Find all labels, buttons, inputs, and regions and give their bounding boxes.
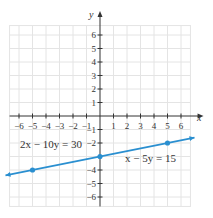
y-tick-label: 4 xyxy=(92,57,97,67)
line-arrow-icon xyxy=(189,136,194,141)
equation-label-right: x − 5y = 15 xyxy=(125,152,176,164)
x-tick-label: −5 xyxy=(28,121,38,131)
axes xyxy=(10,11,204,206)
coordinate-plane: −6−5−4−3−2−1123456−6−5−4−2−1123456 x y 2… xyxy=(0,0,213,218)
x-tick-label: 3 xyxy=(138,121,143,131)
data-point xyxy=(165,140,170,145)
x-tick-label: −2 xyxy=(68,121,78,131)
x-tick-label: 4 xyxy=(152,121,157,131)
y-tick-label: 2 xyxy=(92,84,97,94)
x-tick-label: 6 xyxy=(179,121,184,131)
y-axis-arrow-icon xyxy=(98,11,103,17)
y-tick-label: −2 xyxy=(86,138,96,148)
x-axis-label: x xyxy=(196,112,202,123)
equation-label-left: 2x − 10y = 30 xyxy=(20,138,82,150)
y-tick-label: 6 xyxy=(92,30,97,40)
y-tick-label: −1 xyxy=(86,125,96,135)
y-tick-label: −5 xyxy=(86,179,96,189)
y-tick-label: 3 xyxy=(92,71,97,81)
x-tick-label: 2 xyxy=(125,121,130,131)
x-tick-label: −6 xyxy=(14,121,24,131)
y-axis-label: y xyxy=(88,9,94,20)
x-tick-label: −4 xyxy=(41,121,51,131)
y-tick-label: 5 xyxy=(92,44,97,54)
line-arrow-icon xyxy=(6,172,11,177)
y-tick-label: −4 xyxy=(86,165,96,175)
data-point xyxy=(97,154,102,159)
x-tick-label: 5 xyxy=(165,121,170,131)
y-tick-label: 1 xyxy=(92,98,97,108)
x-tick-label: −3 xyxy=(55,121,65,131)
data-point xyxy=(30,167,35,172)
x-tick-label: 1 xyxy=(111,121,116,131)
y-tick-label: −6 xyxy=(86,192,96,202)
